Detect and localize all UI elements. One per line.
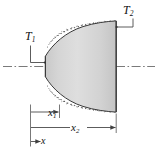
t2-subscript: 2 (130, 9, 134, 18)
t1-leader-line (31, 46, 46, 64)
conical-solid-body (45, 21, 116, 112)
t1-subscript: 1 (32, 35, 36, 44)
t1-base: T (25, 29, 32, 43)
temperature-label-t1: T1 (25, 30, 36, 43)
temperature-label-t2: T2 (123, 4, 134, 17)
t2-base: T (123, 3, 130, 17)
x2-subscript: 2 (76, 127, 80, 134)
x1-subscript: 1 (53, 112, 57, 119)
axis-label-x: x (41, 136, 45, 146)
dimension-label-x2: x2 (71, 122, 79, 134)
heat-conduction-diagram: T1 T2 x1 x2 x (0, 0, 158, 156)
t2-leader-line (116, 19, 134, 29)
dimension-label-x1: x1 (48, 107, 56, 119)
